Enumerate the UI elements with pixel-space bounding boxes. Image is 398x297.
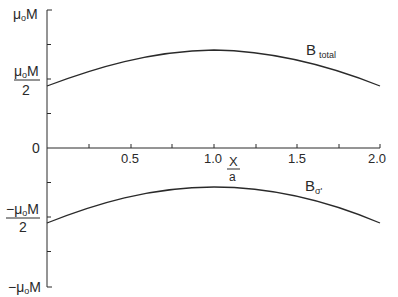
y-label-bottom: −μoM: [8, 279, 41, 296]
y-label-half-numerator: μoM: [14, 63, 39, 80]
y-label-top: μoM: [13, 6, 38, 23]
y-label-neg-half-denominator: 2: [19, 219, 27, 235]
series-b-total-label: Btotal: [306, 41, 336, 60]
series-b-sigma-label: Bσ': [305, 177, 323, 196]
x-tick-label-2-0: 2.0: [368, 151, 386, 166]
x-tick-label-0-5: 0.5: [121, 151, 139, 166]
x-ticks: [89, 144, 380, 148]
chart-canvas: μoM μoM 2 0 −μoM 2 −μoM 0.5 1.0 1.5 2.0 …: [0, 0, 398, 297]
y-label-zero: 0: [32, 140, 40, 156]
y-label-neg-half-numerator: −μoM: [6, 201, 39, 218]
y-label-half-denominator: 2: [22, 82, 30, 98]
x-tick-label-1-0: 1.0: [204, 151, 222, 166]
x-axis-label-denominator: a: [229, 170, 236, 184]
x-axis-label-numerator: X: [229, 154, 238, 169]
x-tick-label-1-5: 1.5: [288, 151, 306, 166]
series-b-sigma-line: [47, 187, 380, 223]
